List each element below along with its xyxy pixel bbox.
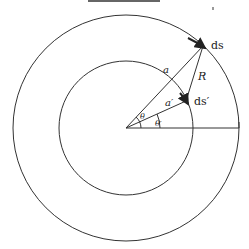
label-ds: ds: [211, 39, 224, 52]
cropped-title-text: [88, 0, 160, 2]
label-theta: θ: [140, 112, 145, 121]
scan-speck: [212, 7, 214, 10]
label-theta-prime: θ′: [155, 119, 162, 128]
label-ds-prime: ds′: [194, 95, 210, 108]
label-a: a: [163, 64, 169, 75]
label-a-prime: a′: [165, 97, 174, 108]
label-R: R: [197, 70, 206, 83]
circle-diagram: a a′ R ds ds′ θ θ′: [0, 0, 249, 249]
